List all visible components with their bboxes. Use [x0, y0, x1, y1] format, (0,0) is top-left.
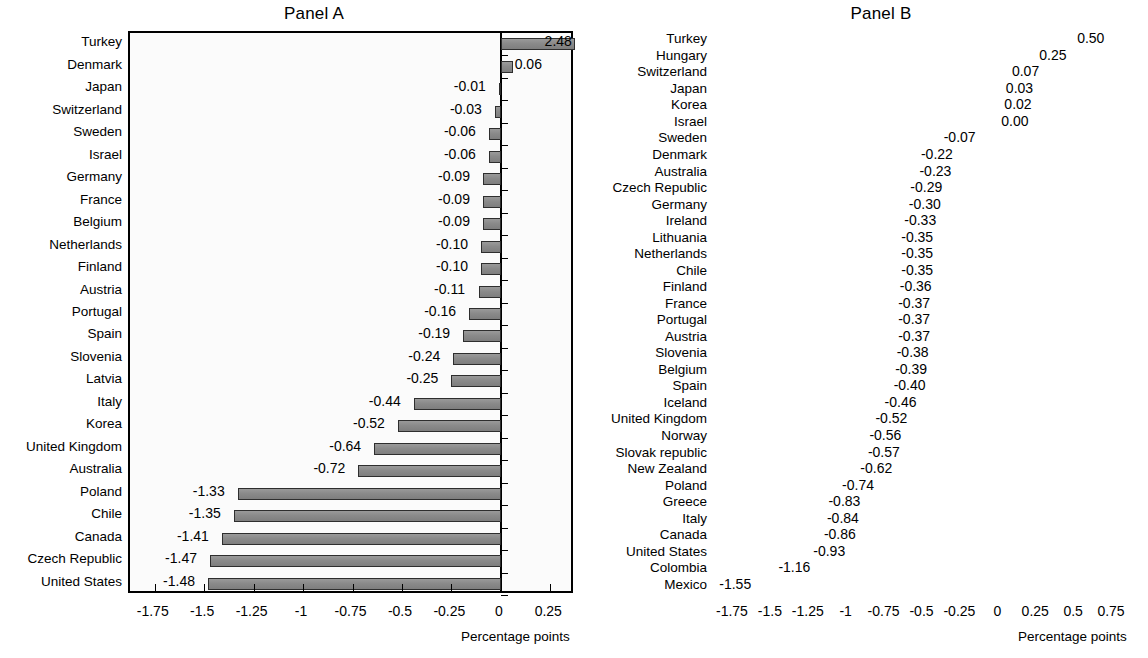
- category-label: Israel: [674, 115, 707, 129]
- category-label: United Kingdom: [26, 440, 122, 454]
- value-label: -0.09: [438, 214, 470, 228]
- bar: [451, 375, 500, 387]
- category-label: Hungary: [656, 49, 707, 63]
- x-axis-tick-label: 0.5: [1063, 603, 1082, 619]
- category-label: Poland: [80, 485, 122, 499]
- category-label: Canada: [660, 528, 707, 542]
- y-axis-tick: [501, 505, 508, 506]
- value-label: -0.09: [438, 169, 470, 183]
- value-label: 0.06: [515, 57, 542, 71]
- y-axis-tick: [501, 460, 508, 461]
- category-label: Australia: [69, 462, 122, 476]
- y-axis-tick: [501, 438, 508, 439]
- bar: [483, 218, 501, 230]
- value-label: -0.62: [860, 461, 892, 475]
- value-label: 0.02: [1004, 97, 1031, 111]
- category-label: Sweden: [73, 125, 122, 139]
- category-label: Turkey: [81, 35, 122, 49]
- bar: [210, 555, 501, 567]
- x-axis-tick-label: -0.25: [943, 603, 975, 619]
- value-label: -0.07: [944, 130, 976, 144]
- y-axis-tick: [501, 123, 508, 124]
- value-label: -0.33: [904, 213, 936, 227]
- x-axis-tick-label: -1.75: [716, 603, 748, 619]
- category-label: Denmark: [67, 58, 122, 72]
- category-label: Colombia: [650, 561, 707, 575]
- y-axis-tick: [501, 528, 508, 529]
- x-axis-tick: [501, 584, 502, 591]
- category-label: Australia: [654, 165, 707, 179]
- x-axis-tick: [353, 584, 354, 591]
- category-label: Finland: [663, 280, 707, 294]
- category-label: Slovenia: [70, 350, 122, 364]
- bar: [501, 61, 513, 73]
- y-axis-tick: [501, 55, 508, 56]
- x-axis-tick-label: -1.5: [190, 603, 214, 619]
- value-label: -0.56: [869, 428, 901, 442]
- y-axis-tick: [501, 370, 508, 371]
- x-axis-tick: [451, 584, 452, 591]
- value-label: -0.06: [444, 147, 476, 161]
- category-label: Germany: [651, 198, 707, 212]
- value-label: -0.35: [901, 230, 933, 244]
- value-label: -0.11: [434, 282, 465, 296]
- value-label: -0.23: [919, 164, 951, 178]
- category-label: Norway: [661, 429, 707, 443]
- value-label: -0.39: [895, 362, 927, 376]
- value-label: -0.93: [813, 544, 845, 558]
- category-label: Switzerland: [637, 65, 707, 79]
- value-label: -0.29: [910, 180, 942, 194]
- bar: [463, 330, 501, 342]
- bar: [495, 106, 501, 118]
- value-label: -1.35: [189, 506, 221, 520]
- panel-a-title: Panel A: [0, 2, 574, 26]
- panel-a: Panel A Turkey2.48Denmark0.06Japan-0.01S…: [0, 0, 574, 658]
- bar: [489, 128, 501, 140]
- bar: [479, 286, 501, 298]
- y-axis-tick: [501, 258, 508, 259]
- category-label: Lithuania: [652, 231, 707, 245]
- x-axis-tick-label: -0.5: [388, 603, 412, 619]
- category-label: Switzerland: [52, 103, 122, 117]
- y-axis-tick: [501, 325, 508, 326]
- category-label: Slovak republic: [615, 446, 707, 460]
- y-axis-tick: [501, 213, 508, 214]
- x-axis-tick-label: -1.25: [792, 603, 824, 619]
- category-label: Korea: [86, 417, 122, 431]
- y-axis-tick: [501, 280, 508, 281]
- y-axis-tick: [501, 190, 508, 191]
- value-label: -1.47: [165, 551, 197, 565]
- x-axis-tick-label: 0: [495, 603, 503, 619]
- y-axis-tick: [501, 303, 508, 304]
- bar: [234, 510, 501, 522]
- value-label: -0.25: [406, 371, 438, 385]
- value-label: -0.24: [408, 349, 440, 363]
- category-label: Korea: [671, 98, 707, 112]
- bar: [481, 263, 501, 275]
- bar: [483, 196, 501, 208]
- category-label: Poland: [665, 479, 707, 493]
- category-label: Belgium: [73, 215, 122, 229]
- bar: [483, 173, 501, 185]
- category-label: Chile: [676, 264, 707, 278]
- category-label: Mexico: [664, 578, 707, 592]
- category-label: New Zealand: [627, 462, 707, 476]
- y-axis-tick: [501, 168, 508, 169]
- bar: [238, 488, 501, 500]
- y-axis-tick: [501, 393, 508, 394]
- category-label: Netherlands: [634, 247, 707, 261]
- category-label: Chile: [91, 507, 122, 521]
- x-axis-tick-label: 0.25: [535, 603, 562, 619]
- value-label: -0.83: [828, 494, 860, 508]
- bar: [489, 151, 501, 163]
- category-label: Latvia: [86, 372, 122, 386]
- value-label: -0.10: [436, 259, 468, 273]
- x-axis-tick: [155, 584, 156, 591]
- x-axis-tick-label: -1: [295, 603, 307, 619]
- y-axis-tick: [501, 78, 508, 79]
- value-label: -0.86: [824, 527, 856, 541]
- value-label: -0.74: [842, 478, 874, 492]
- bar: [374, 443, 501, 455]
- value-label: -1.16: [778, 560, 810, 574]
- x-axis-title: Percentage points: [461, 629, 570, 644]
